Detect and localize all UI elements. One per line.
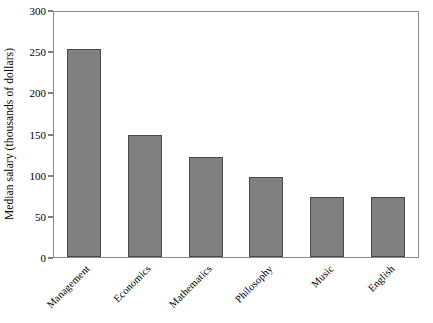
bar-slot xyxy=(236,12,297,257)
bars-layer xyxy=(54,12,418,257)
y-tick-label: 100 xyxy=(30,170,47,182)
bar-slot xyxy=(297,12,358,257)
x-tick-label: Music xyxy=(309,263,336,290)
bar-slot xyxy=(54,12,115,257)
x-tick-label: Philosophy xyxy=(232,263,274,305)
plot-area xyxy=(53,11,419,258)
x-tick-label-slot: Economics xyxy=(114,259,175,323)
bar xyxy=(128,135,162,258)
y-tick-label: 150 xyxy=(30,129,47,141)
y-tick-label: 300 xyxy=(30,5,47,17)
y-tick-label: 200 xyxy=(30,87,47,99)
y-axis-title-text: Median salary (thousands of dollars) xyxy=(3,48,15,220)
x-axis-tick-labels: ManagementEconomicsMathematicsPhilosophy… xyxy=(53,259,419,323)
x-tick-label-slot: Management xyxy=(53,259,114,323)
x-tick-label-slot: Music xyxy=(297,259,358,323)
bar xyxy=(310,197,344,257)
bar xyxy=(371,197,405,257)
x-tick-label: English xyxy=(365,263,396,294)
bar-slot xyxy=(357,12,418,257)
bar-slot xyxy=(175,12,236,257)
bar xyxy=(67,49,101,257)
x-tick-label: Economics xyxy=(111,263,152,304)
x-tick-label: Management xyxy=(44,263,91,310)
x-tick-label-slot: Mathematics xyxy=(175,259,236,323)
bar xyxy=(249,177,283,257)
y-tick-label: 50 xyxy=(35,211,46,223)
x-tick-label-slot: Philosophy xyxy=(236,259,297,323)
y-tick-label: 0 xyxy=(41,252,47,264)
bar xyxy=(189,157,223,257)
bar-slot xyxy=(115,12,176,257)
x-tick-label-slot: English xyxy=(358,259,419,323)
y-axis-tick-labels: 050100150200250300 xyxy=(16,0,46,268)
y-tick-label: 250 xyxy=(30,46,47,58)
bar-chart: Median salary (thousands of dollars) 050… xyxy=(0,0,433,323)
